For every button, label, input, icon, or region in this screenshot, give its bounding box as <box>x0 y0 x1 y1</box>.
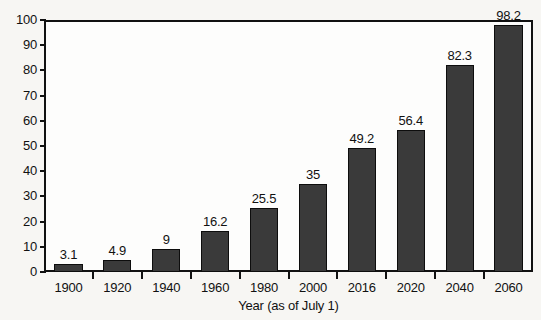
bar-group: 3.1 <box>54 20 82 272</box>
bar-group: 16.2 <box>201 20 229 272</box>
bar-value-label: 82.3 <box>434 48 486 63</box>
bar-group: 82.3 <box>446 20 474 272</box>
x-axis-tick-label: 2060 <box>484 280 533 296</box>
y-axis-tick-label: 40 <box>23 164 37 178</box>
bar-value-label: 9 <box>140 232 192 247</box>
bar-group: 98.2 <box>494 20 522 272</box>
bar <box>494 25 522 272</box>
x-axis-tick-mark <box>141 272 143 279</box>
x-axis-tick-label: 1980 <box>240 280 289 296</box>
x-axis: 1900192019401960198020002016202020402060 <box>44 272 533 298</box>
x-axis-tick-label: 2020 <box>386 280 435 296</box>
bar-value-label: 56.4 <box>385 113 437 128</box>
bar-value-label: 35 <box>287 167 339 182</box>
bar-value-label: 49.2 <box>336 131 388 146</box>
bar-value-label: 4.9 <box>91 243 143 258</box>
bar <box>446 65 474 272</box>
x-axis-tick-label: 1960 <box>191 280 240 296</box>
bar-chart: 1009080706050403020100 3.14.9916.225.535… <box>0 0 541 320</box>
y-axis-tick-label: 80 <box>23 63 37 77</box>
x-axis-tick-mark <box>336 272 338 279</box>
x-axis-tick-label: 1940 <box>142 280 191 296</box>
bar-group: 4.9 <box>103 20 131 272</box>
x-axis-title: Year (as of July 1) <box>44 298 533 314</box>
bar <box>54 264 82 272</box>
bar-group: 56.4 <box>397 20 425 272</box>
y-axis-tick-label: 50 <box>23 139 37 153</box>
bar-group: 9 <box>152 20 180 272</box>
y-axis-tick-label: 20 <box>23 215 37 229</box>
x-axis-tick-label: 2000 <box>289 280 338 296</box>
bar <box>348 148 376 272</box>
x-axis-tick-mark <box>190 272 192 279</box>
bar-value-label: 98.2 <box>482 8 534 23</box>
y-axis-tick-label: 0 <box>30 265 37 279</box>
bar-value-label: 3.1 <box>42 247 94 262</box>
y-axis: 1009080706050403020100 <box>0 14 46 276</box>
x-axis-tick-label: 2016 <box>337 280 386 296</box>
bar-group: 49.2 <box>348 20 376 272</box>
y-axis-tick-label: 100 <box>16 13 37 27</box>
bar <box>152 249 180 272</box>
x-axis-tick-mark <box>483 272 485 279</box>
bar <box>299 184 327 272</box>
y-axis-tick-label: 10 <box>23 240 37 254</box>
x-axis-tick-label: 2040 <box>435 280 484 296</box>
x-axis-tick-mark <box>434 272 436 279</box>
bar-group: 35 <box>299 20 327 272</box>
bar <box>103 260 131 272</box>
x-axis-tick-label: 1920 <box>93 280 142 296</box>
y-axis-tick-label: 70 <box>23 89 37 103</box>
bars-layer: 3.14.9916.225.53549.256.482.398.2 <box>44 20 533 272</box>
bar <box>397 130 425 272</box>
bar <box>201 231 229 272</box>
bar <box>250 208 278 272</box>
x-axis-tick-label: 1900 <box>44 280 93 296</box>
bar-group: 25.5 <box>250 20 278 272</box>
x-axis-tick-mark <box>385 272 387 279</box>
y-axis-tick-label: 30 <box>23 189 37 203</box>
y-axis-tick-label: 60 <box>23 114 37 128</box>
x-axis-tick-mark <box>288 272 290 279</box>
bar-value-label: 25.5 <box>238 191 290 206</box>
x-axis-tick-mark <box>239 272 241 279</box>
x-axis-tick-mark <box>92 272 94 279</box>
bar-value-label: 16.2 <box>189 214 241 229</box>
y-axis-tick-label: 90 <box>23 38 37 52</box>
